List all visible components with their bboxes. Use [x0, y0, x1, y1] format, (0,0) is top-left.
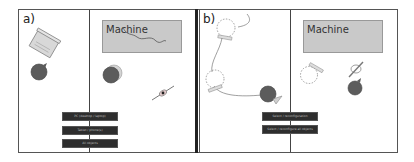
- trajectory-a: [123, 27, 166, 42]
- laptop-icon: [28, 28, 61, 58]
- person-icon-b2: [348, 78, 362, 95]
- dashed-target-b1: [217, 19, 235, 40]
- tool-icon-a: [152, 86, 174, 100]
- diagram-graphics: [0, 0, 414, 162]
- dashed-target-b2: [206, 70, 224, 92]
- person-icon-a2: [103, 65, 122, 83]
- person-icon-b1: [260, 86, 282, 104]
- person-icon-a1: [31, 63, 47, 80]
- dashed-target-b3: [301, 63, 324, 84]
- tool-icon-b: [349, 62, 363, 77]
- trajectory-b: [212, 14, 262, 96]
